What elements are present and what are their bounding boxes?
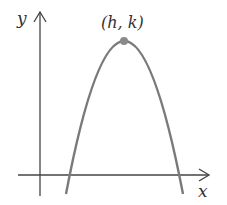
graph-canvas: y x (h, k): [0, 0, 227, 205]
vertex-point: [120, 37, 128, 45]
parabola-curve: [66, 41, 183, 194]
x-axis-label: x: [198, 181, 208, 201]
y-axis-label: y: [16, 8, 27, 28]
vertex-label: (h, k): [101, 13, 144, 32]
parabola-diagram: y x (h, k): [0, 0, 227, 205]
y-axis: [34, 12, 46, 196]
